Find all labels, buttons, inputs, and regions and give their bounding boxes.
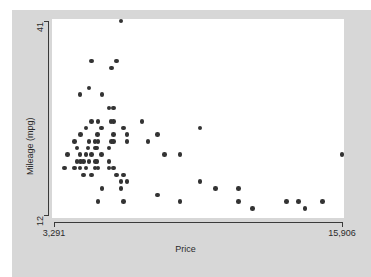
y-axis-line <box>48 21 49 216</box>
x-axis-tick-right <box>342 222 343 227</box>
scatter-plot-figure: 41 12 3,291 15,906 Mileage (mpg) Price <box>0 0 371 277</box>
y-axis-tick-label-max: 41 <box>36 22 45 32</box>
plot-area <box>52 19 344 218</box>
x-axis-tick-label-min: 3,291 <box>43 229 66 238</box>
y-axis-title: Mileage (mpg) <box>26 117 35 175</box>
x-axis-title: Price <box>0 245 371 254</box>
x-axis-tick-left <box>54 222 55 227</box>
y-axis-tick-label-min: 12 <box>36 216 45 226</box>
x-axis-line <box>54 222 343 223</box>
x-axis-tick-label-max: 15,906 <box>328 229 356 238</box>
